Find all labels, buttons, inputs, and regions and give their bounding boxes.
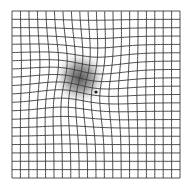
amsler-grid <box>0 0 192 190</box>
fixation-dot-marker <box>94 90 97 93</box>
fixation-dot <box>94 90 97 93</box>
